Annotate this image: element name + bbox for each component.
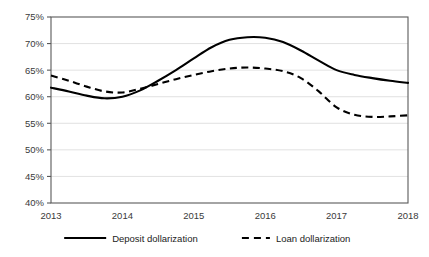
y-axis-tick-label: 45% <box>25 171 45 182</box>
y-axis-tick-label: 75% <box>25 11 45 22</box>
x-axis-tick-label: 2018 <box>397 210 418 221</box>
legend-label-2: Loan dollarization <box>276 233 350 244</box>
y-axis-tick-label: 70% <box>25 38 45 49</box>
x-axis-tick-label: 2014 <box>112 210 133 221</box>
chart-background <box>0 0 429 257</box>
x-axis-tick-label: 2016 <box>255 210 276 221</box>
y-axis-tick-label: 55% <box>25 118 45 129</box>
y-axis-tick-label: 65% <box>25 65 45 76</box>
x-axis-tick-label: 2015 <box>183 210 204 221</box>
x-axis-tick-label: 2017 <box>326 210 347 221</box>
y-axis-tick-label: 60% <box>25 91 45 102</box>
y-axis-tick-label: 40% <box>25 197 45 208</box>
x-axis-tick-label: 2013 <box>40 210 61 221</box>
chart-canvas: 40%45%50%55%60%65%70%75% 201320142015201… <box>0 0 429 257</box>
y-axis-tick-label: 50% <box>25 144 45 155</box>
legend-label-1: Deposit dollarization <box>112 233 198 244</box>
line-chart: 40%45%50%55%60%65%70%75% 201320142015201… <box>0 0 429 257</box>
